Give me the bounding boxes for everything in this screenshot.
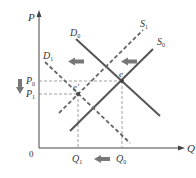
left-arrow-icon: [94, 155, 110, 163]
s0-label: S0: [157, 36, 165, 48]
e-prime-label: e': [73, 82, 80, 92]
p0-label: P0: [25, 75, 35, 87]
q0-label: Q0: [116, 153, 126, 165]
s1-label: S1: [140, 18, 148, 30]
x-axis-arrow-icon: [178, 146, 185, 151]
e-label: e: [119, 69, 123, 79]
d1-label: D1: [42, 50, 53, 62]
y-axis-arrow-icon: [37, 10, 42, 17]
origin-label: 0: [29, 149, 34, 159]
labels: P Q 0 D0 D1 S1 S0 e e' P0 P1 Q1 Q0: [25, 11, 195, 165]
down-arrow-icon: [16, 79, 24, 94]
supply-demand-diagram: P Q 0 D0 D1 S1 S0 e e' P0 P1 Q1 Q0: [0, 0, 196, 178]
p1-label: P1: [25, 88, 35, 100]
q1-label: Q1: [72, 153, 82, 165]
equilibrium-point-e: [120, 79, 124, 83]
left-arrow-icon: [121, 58, 137, 66]
d0-label: D0: [69, 27, 80, 39]
left-arrow-icon: [68, 58, 84, 66]
x-axis-label: Q: [187, 142, 195, 154]
axes: [37, 10, 186, 151]
demand-curve-d1: [45, 62, 130, 143]
y-axis-label: P: [27, 11, 35, 23]
equilibrium-point-e-prime: [76, 92, 80, 96]
